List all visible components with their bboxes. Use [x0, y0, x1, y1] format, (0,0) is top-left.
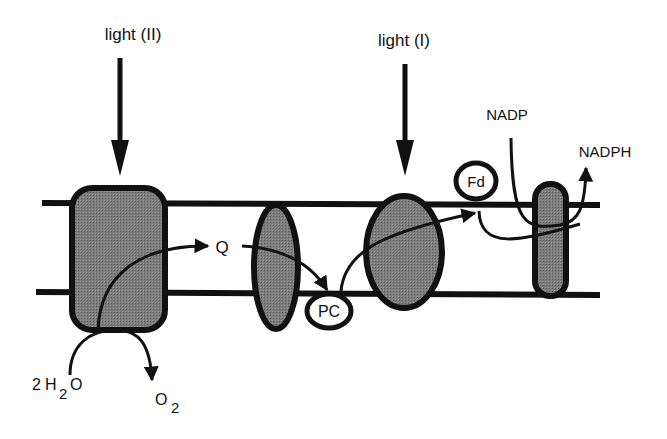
cytochrome-complex [254, 205, 298, 329]
water-input-path [70, 330, 115, 375]
oxygen-output-path [115, 330, 152, 380]
fd-label: Fd [467, 173, 485, 190]
light-ii-arrow [111, 58, 129, 176]
svg-text:2: 2 [171, 399, 179, 416]
svg-text:2: 2 [32, 376, 41, 393]
svg-text:O: O [155, 391, 167, 408]
photosystem-i [366, 196, 442, 308]
svg-text:O: O [70, 376, 82, 393]
light-ii-label: light (II) [105, 25, 162, 44]
nadp-reductase [535, 184, 566, 296]
light-i-arrow [396, 64, 414, 176]
q-label: Q [215, 238, 228, 257]
diagram-canvas: PC Fd light (II) light (I) Q NADP NADPH … [0, 0, 667, 439]
nadph-label: NADPH [579, 143, 632, 160]
nadp-label: NADP [486, 106, 528, 123]
water-label: 2 H 2 O [32, 376, 82, 402]
oxygen-label: O 2 [155, 391, 179, 416]
svg-text:2: 2 [59, 385, 67, 402]
light-i-label: light (I) [378, 31, 430, 50]
photosystem-ii [72, 188, 165, 330]
svg-text:H: H [45, 376, 57, 393]
pc-label: PC [318, 303, 340, 320]
